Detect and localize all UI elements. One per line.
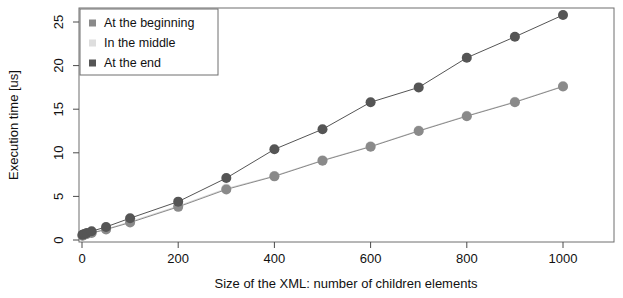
data-point bbox=[366, 142, 376, 152]
chart-figure: 02004006008001000 0510152025 Size of the… bbox=[0, 0, 623, 298]
data-point bbox=[366, 97, 376, 107]
data-point bbox=[318, 156, 328, 166]
data-point bbox=[318, 124, 328, 134]
y-tick-label: 20 bbox=[51, 58, 66, 72]
data-point bbox=[414, 126, 424, 136]
data-point bbox=[414, 82, 424, 92]
y-tick-label: 25 bbox=[51, 15, 66, 29]
data-point bbox=[125, 213, 135, 223]
legend-label-at-the-beginning: At the beginning bbox=[104, 16, 194, 30]
data-point bbox=[510, 97, 520, 107]
x-tick-label: 600 bbox=[360, 251, 382, 266]
y-tick-label: 0 bbox=[51, 236, 66, 243]
data-point bbox=[462, 111, 472, 121]
data-point bbox=[269, 144, 279, 154]
y-axis-title: Execution time [us] bbox=[6, 70, 21, 180]
data-point bbox=[558, 10, 568, 20]
legend-label-at-the-end: At the end bbox=[104, 56, 161, 70]
legend-swatch-in-the-middle bbox=[89, 40, 96, 47]
execution-time-line-chart: 02004006008001000 0510152025 Size of the… bbox=[0, 0, 623, 298]
x-tick-label: 400 bbox=[264, 251, 286, 266]
x-axis-title: Size of the XML: number of children elem… bbox=[214, 276, 478, 291]
x-tick-label: 800 bbox=[456, 251, 478, 266]
chart-legend: At the beginning In the middle At the en… bbox=[80, 9, 218, 75]
legend-swatch-at-the-beginning bbox=[89, 20, 96, 27]
x-tick-label: 1000 bbox=[549, 251, 578, 266]
x-tick-label: 200 bbox=[167, 251, 189, 266]
y-tick-label: 10 bbox=[51, 146, 66, 160]
y-tick-label: 5 bbox=[51, 193, 66, 200]
legend-label-in-the-middle: In the middle bbox=[104, 36, 176, 50]
data-point bbox=[221, 173, 231, 183]
data-point bbox=[462, 53, 472, 63]
x-tick-label: 0 bbox=[78, 251, 85, 266]
data-point bbox=[269, 171, 279, 181]
data-point bbox=[87, 226, 97, 236]
y-tick-label: 15 bbox=[51, 102, 66, 116]
data-point bbox=[221, 184, 231, 194]
data-point bbox=[558, 82, 568, 92]
data-point bbox=[510, 32, 520, 42]
data-point bbox=[173, 197, 183, 207]
legend-swatch-at-the-end bbox=[89, 60, 96, 67]
data-point bbox=[101, 222, 111, 232]
